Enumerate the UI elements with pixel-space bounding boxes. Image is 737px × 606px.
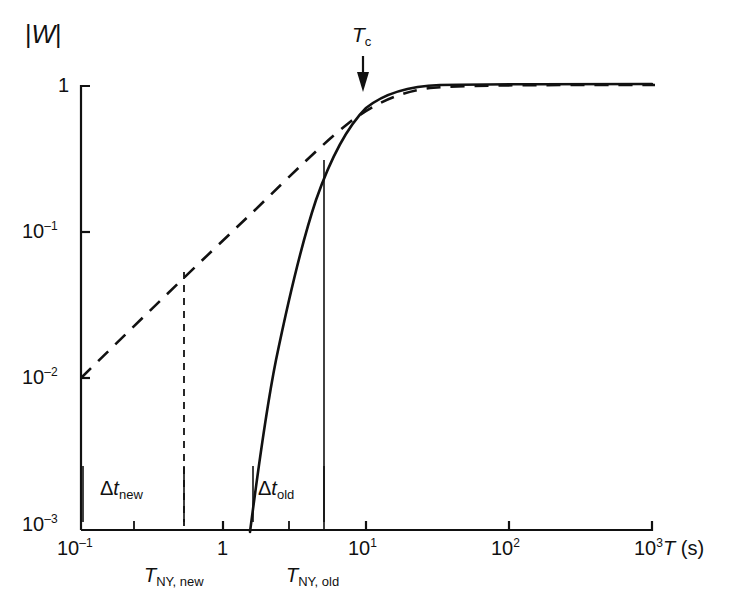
y-axis-line (81, 86, 90, 530)
series-old-solid-curve (250, 84, 652, 532)
x-tick-label-1e-1: 10–1 (57, 538, 93, 558)
x-axis-title-exponent: 3 (656, 536, 663, 550)
t-ny-new-subscript: NY, new (156, 574, 203, 589)
tc-label-subscript: c (365, 34, 372, 49)
y-tick-label-1e-3: 10–3 (22, 514, 58, 534)
t-ny-old-label: TNY, old (286, 565, 339, 585)
x-tick-label-1e-1-mantissa: 10 (57, 537, 79, 559)
y-axis-title-var: W (32, 20, 56, 48)
x-axis-title-mantissa: 10 (634, 537, 656, 559)
y-tick-label-1e-2-mantissa: 10 (22, 366, 44, 388)
tc-arrow-head-icon (357, 72, 369, 92)
x-axis-title: 103T (s) (634, 538, 704, 558)
x-tick-label-1e-1-exponent: –1 (79, 536, 92, 550)
y-tick-label-1e-1: 10–1 (22, 221, 58, 241)
x-tick-label-1e1-exponent: 1 (370, 536, 377, 550)
y-tick-label-1e-1-mantissa: 10 (22, 220, 44, 242)
x-tick-label-1e0-mantissa: 1 (217, 537, 228, 559)
x-tick-label-1e2-exponent: 2 (513, 536, 520, 550)
delta-t-new-symbol: Δ (100, 477, 113, 499)
t-ny-old-variable: T (286, 564, 298, 586)
y-tick-label-1e-3-mantissa: 10 (22, 513, 44, 535)
t-ny-new-variable: T (144, 564, 156, 586)
y-tick-label-1: 1 (58, 75, 69, 95)
x-tick-label-1e1-mantissa: 10 (348, 537, 370, 559)
x-tick-label-1e2-mantissa: 10 (491, 537, 513, 559)
y-tick-label-1e-3-exponent: –3 (44, 512, 57, 526)
tc-label-variable: T (352, 23, 365, 46)
t-ny-new-label: TNY, new (144, 565, 204, 585)
t-ny-old-subscript: NY, old (298, 574, 339, 589)
tc-label: Tc (352, 24, 371, 45)
delta-t-old-symbol: Δ (258, 477, 271, 499)
chart-canvas (0, 0, 737, 606)
series-new-dashed-curve (81, 85, 655, 378)
delta-t-old-subscript: old (277, 487, 294, 502)
x-tick-label-1e1: 101 (348, 538, 377, 558)
x-axis-title-variable: T (663, 537, 675, 559)
delta-t-new-label: Δtnew (100, 478, 143, 498)
y-axis-title: |W| (25, 22, 62, 47)
x-tick-label-1e0: 1 (217, 538, 228, 558)
y-tick-label-1-mantissa: 1 (58, 74, 69, 96)
x-tick-label-1e2: 102 (491, 538, 520, 558)
delta-t-new-subscript: new (119, 487, 143, 502)
figure-container: |W| 1 10–1 10–2 10–3 10–1 1 101 102 103T… (0, 0, 737, 606)
x-axis-title-unit: (s) (681, 537, 704, 559)
y-tick-label-1e-1-exponent: –1 (44, 219, 57, 233)
y-axis-title-bar-right: | (55, 20, 62, 48)
y-tick-label-1e-2: 10–2 (22, 367, 58, 387)
delta-t-old-label: Δtold (258, 478, 294, 498)
y-tick-label-1e-2-exponent: –2 (44, 365, 57, 379)
